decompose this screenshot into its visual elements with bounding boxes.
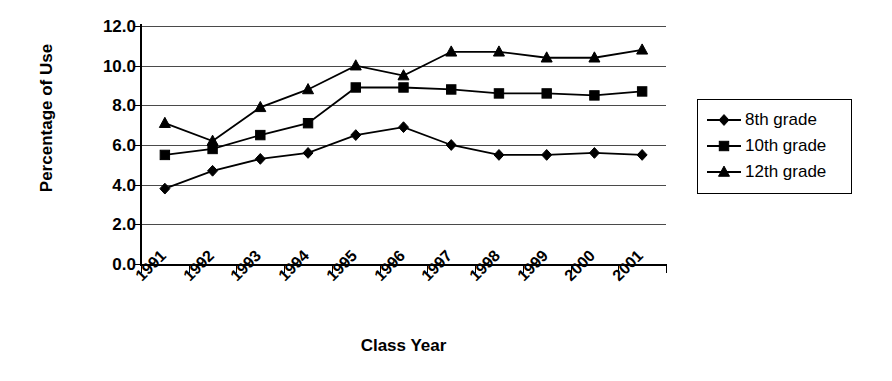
data-point-marker — [637, 87, 646, 96]
plot-area — [141, 26, 666, 264]
data-point-marker — [351, 83, 360, 92]
data-point-marker — [494, 89, 503, 98]
y-axis-tick-label: 6.0 — [74, 137, 136, 154]
data-point-marker — [208, 165, 218, 176]
data-point-marker — [350, 60, 361, 70]
y-axis-tick-label: 4.0 — [74, 176, 136, 193]
square-marker-icon — [706, 136, 742, 156]
data-point-marker — [303, 84, 314, 94]
y-axis-tick-label: 10.0 — [74, 57, 136, 74]
y-axis-tick-labels: 0.02.04.06.08.010.012.0 — [68, 0, 136, 381]
chart-legend: 8th grade10th grade12th grade — [697, 99, 852, 194]
data-point-marker — [542, 150, 552, 161]
data-point-marker — [589, 148, 599, 159]
data-point-marker — [399, 83, 408, 92]
diamond-marker-icon — [706, 110, 742, 130]
legend-item-label: 8th grade — [742, 110, 817, 130]
y-axis-tick-label: 0.0 — [74, 256, 136, 273]
data-point-marker — [159, 117, 170, 127]
data-point-marker — [160, 150, 169, 159]
legend-item[interactable]: 8th grade — [706, 107, 843, 133]
legend-item-label: 10th grade — [742, 136, 826, 156]
triangle-marker-icon — [706, 162, 742, 182]
series-8th-grade — [160, 122, 647, 194]
legend-item[interactable]: 10th grade — [706, 133, 843, 159]
x-axis-tick-mark — [666, 266, 667, 273]
data-point-marker — [494, 150, 504, 161]
y-axis-title: Percentage of Use — [37, 0, 57, 243]
series-line — [165, 127, 642, 188]
data-point-marker — [303, 118, 312, 127]
legend-item[interactable]: 12th grade — [706, 159, 843, 185]
y-axis-tick-label: 2.0 — [74, 216, 136, 233]
data-point-marker — [351, 130, 361, 141]
chart-figure: Percentage of Use 0.02.04.06.08.010.012.… — [0, 0, 892, 381]
data-point-marker — [447, 85, 456, 94]
data-point-marker — [637, 44, 648, 54]
data-point-marker — [637, 150, 647, 161]
data-point-marker — [160, 183, 170, 194]
legend-item-label: 12th grade — [742, 162, 826, 182]
data-point-marker — [446, 140, 456, 151]
data-point-marker — [590, 91, 599, 100]
y-axis-tick-label: 12.0 — [74, 18, 136, 35]
data-point-marker — [542, 89, 551, 98]
data-point-marker — [399, 122, 409, 133]
y-axis-tick-label: 8.0 — [74, 97, 136, 114]
series-layer — [141, 26, 666, 264]
data-point-marker — [303, 148, 313, 159]
x-axis-tick-labels: 1991199219931994199519961997199819992000… — [141, 272, 666, 332]
data-point-marker — [256, 130, 265, 139]
data-point-marker — [255, 153, 265, 164]
x-axis-title: Class Year — [141, 336, 666, 356]
